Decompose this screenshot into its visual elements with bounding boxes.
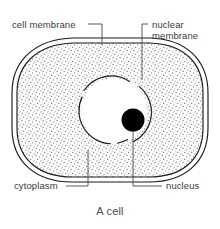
nucleus-disc — [122, 109, 145, 132]
figure-caption: A cell — [0, 205, 220, 217]
label-cell-membrane: cell membrane — [12, 19, 76, 30]
label-cytoplasm: cytoplasm — [14, 180, 58, 191]
label-nuclear-membrane-line1: nuclear — [152, 19, 184, 30]
label-nuclear-membrane-line2: membrane — [152, 30, 198, 41]
cell-diagram-figure: cell membrane nuclearmembrane cytoplasm … — [0, 0, 220, 229]
label-nucleus: nucleus — [166, 180, 199, 191]
label-nuclear-membrane: nuclearmembrane — [152, 19, 214, 41]
cell-membrane-leader-line — [88, 24, 102, 45]
